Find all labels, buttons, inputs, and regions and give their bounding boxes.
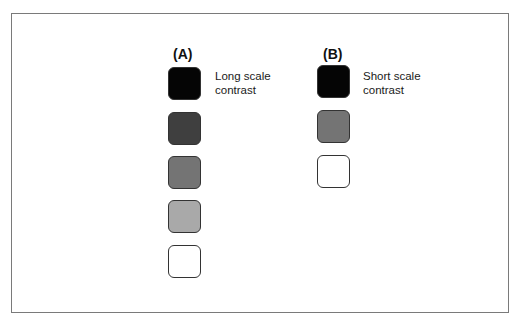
panel-b-label: (B)	[323, 46, 342, 62]
panel-b-swatch-white	[317, 155, 350, 188]
panel-a-label: (A)	[173, 46, 192, 62]
panel-a-swatch-light-gray	[168, 200, 201, 233]
panel-a-swatch-dark-gray	[168, 112, 201, 145]
panel-a-caption: Long scale contrast	[215, 69, 295, 97]
panel-b-caption: Short scale contrast	[363, 69, 443, 97]
panel-b-swatch-medium-gray	[317, 110, 350, 143]
panel-b-swatch-black	[317, 65, 350, 98]
panel-a-swatch-medium-gray	[168, 156, 201, 189]
panel-b-caption-line1: Short scale	[363, 69, 443, 83]
panel-a-swatch-black	[168, 67, 201, 100]
panel-b-caption-line2: contrast	[363, 83, 443, 97]
panel-a-swatch-white	[168, 245, 201, 278]
panel-a-caption-line1: Long scale	[215, 69, 295, 83]
panel-a-caption-line2: contrast	[215, 83, 295, 97]
figure-frame	[11, 13, 509, 313]
